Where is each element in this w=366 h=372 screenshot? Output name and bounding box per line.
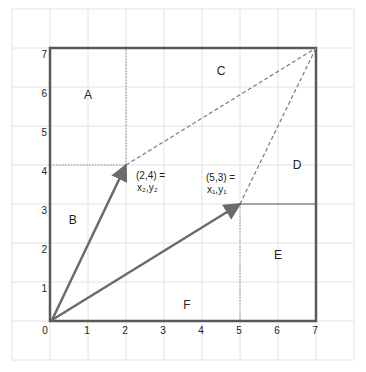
region-label-e: E <box>274 248 282 262</box>
y-axis-ticks: 1234567 <box>41 49 47 294</box>
x-tick-label: 0 <box>42 325 48 336</box>
region-label-b: B <box>69 213 77 227</box>
region-label-a: A <box>84 88 92 102</box>
y-tick-label: 7 <box>41 49 47 60</box>
y-tick-label: 5 <box>41 127 47 138</box>
x-axis-ticks: 01234567 <box>42 325 318 336</box>
point-var-label: x₁,y₁ <box>207 184 227 195</box>
x-tick-label: 5 <box>236 325 242 336</box>
point-var-label: x₂,y₂ <box>137 182 158 193</box>
region-label-d: D <box>293 158 302 172</box>
diagram-svg: 01234567 1234567 ABCDEF (2,4) =x₂,y₂(5,3… <box>0 0 366 372</box>
region-label-f: F <box>183 298 190 312</box>
y-tick-label: 4 <box>41 166 47 177</box>
x-tick-label: 6 <box>274 325 280 336</box>
region-label-c: C <box>217 64 226 78</box>
region-labels: ABCDEF <box>69 64 302 312</box>
point-labels: (2,4) =x₂,y₂(5,3) =x₁,y₁ <box>136 170 235 195</box>
x-tick-label: 7 <box>312 325 318 336</box>
x-tick-label: 4 <box>198 325 204 336</box>
x-tick-label: 2 <box>122 325 128 336</box>
diagram-canvas: 01234567 1234567 ABCDEF (2,4) =x₂,y₂(5,3… <box>0 0 366 372</box>
y-tick-label: 2 <box>41 244 47 255</box>
y-tick-label: 1 <box>41 283 47 294</box>
point-coord-label: (2,4) = <box>136 170 165 181</box>
x-tick-label: 1 <box>84 325 90 336</box>
point-coord-label: (5,3) = <box>206 172 235 183</box>
y-tick-label: 3 <box>41 205 47 216</box>
x-tick-label: 3 <box>160 325 166 336</box>
y-tick-label: 6 <box>41 88 47 99</box>
